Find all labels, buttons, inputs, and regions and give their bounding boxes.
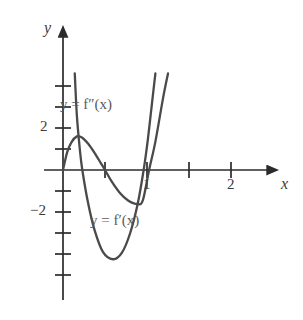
plot-canvas	[0, 0, 303, 320]
curve-label-f-double-prime: y = f″(x)	[60, 97, 112, 112]
y-axis-label: y	[44, 20, 51, 36]
x-tick-label-2: 2	[227, 177, 235, 192]
y-tick-label-minus-2: −2	[30, 203, 46, 218]
x-tick-label-1: 1	[143, 177, 151, 192]
y-tick-label-2: 2	[40, 119, 48, 134]
graph-figure: y x 2 −2 1 2 y = f″(x) y = f′(x)	[0, 0, 303, 320]
curve-f-double-prime	[75, 33, 124, 213]
scan-artifact-text	[8, 0, 14, 6]
x-axis-label: x	[281, 176, 288, 192]
curve-label-f-prime: y = f′(x)	[90, 213, 139, 228]
